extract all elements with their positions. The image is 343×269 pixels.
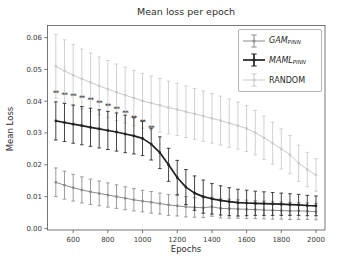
data-point-marker bbox=[185, 206, 187, 208]
data-point-marker bbox=[167, 204, 169, 206]
data-point-marker bbox=[219, 119, 221, 121]
x-axis-label: Epochs bbox=[47, 244, 325, 254]
data-point-marker bbox=[297, 204, 299, 206]
data-point-marker bbox=[55, 120, 57, 122]
data-point-marker bbox=[254, 202, 256, 204]
data-point-marker bbox=[280, 148, 282, 150]
x-tick-label: 1200 bbox=[168, 236, 186, 244]
legend-entry-maml-pinn: MAMLPINN bbox=[242, 51, 318, 70]
data-point-marker bbox=[271, 203, 273, 205]
data-point-marker bbox=[280, 203, 282, 205]
data-point-marker bbox=[72, 123, 74, 125]
data-point-marker bbox=[55, 181, 57, 183]
y-tick-label: 0.06 bbox=[26, 34, 42, 42]
data-point-marker bbox=[202, 195, 204, 197]
data-point-marker bbox=[124, 94, 126, 96]
data-point-marker bbox=[115, 131, 117, 133]
x-tick-label: 2000 bbox=[307, 236, 325, 244]
data-point-marker bbox=[141, 100, 143, 102]
data-point-marker bbox=[124, 133, 126, 135]
y-tick-label: 0.00 bbox=[26, 225, 42, 233]
data-point-marker bbox=[115, 91, 117, 93]
data-point-marker bbox=[107, 194, 109, 196]
significance-marker: ** bbox=[140, 118, 147, 126]
significance-marker: ** bbox=[62, 91, 69, 99]
y-tick-label: 0.04 bbox=[26, 98, 42, 106]
data-point-marker bbox=[81, 189, 83, 191]
data-point-marker bbox=[185, 186, 187, 188]
significance-marker: ** bbox=[88, 96, 95, 104]
data-point-marker bbox=[263, 137, 265, 139]
errorbar-glyph-icon bbox=[242, 52, 266, 68]
data-point-marker bbox=[107, 129, 109, 131]
x-tick-label: 1000 bbox=[134, 236, 152, 244]
significance-marker: ** bbox=[53, 89, 60, 97]
data-point-marker bbox=[211, 117, 213, 119]
data-point-marker bbox=[133, 199, 135, 201]
data-point-marker bbox=[81, 78, 83, 80]
data-point-marker bbox=[245, 127, 247, 129]
data-point-marker bbox=[98, 128, 100, 130]
data-point-marker bbox=[150, 102, 152, 104]
data-point-marker bbox=[107, 88, 109, 90]
x-tick-label: 1600 bbox=[238, 236, 256, 244]
data-point-marker bbox=[193, 113, 195, 115]
data-point-marker bbox=[219, 199, 221, 201]
data-point-marker bbox=[176, 176, 178, 178]
x-tick-label: 1800 bbox=[272, 236, 290, 244]
data-point-marker bbox=[228, 122, 230, 124]
legend-entry-gam-pinn: GAMPINN bbox=[242, 31, 318, 50]
data-point-marker bbox=[89, 191, 91, 193]
data-point-marker bbox=[297, 162, 299, 164]
legend-label-gam-pinn: GAMPINN bbox=[269, 36, 301, 45]
data-point-marker bbox=[193, 192, 195, 194]
x-tick-label: 1400 bbox=[203, 236, 221, 244]
significance-marker: ** bbox=[131, 114, 138, 122]
data-point-marker bbox=[289, 203, 291, 205]
data-point-marker bbox=[159, 202, 161, 204]
y-tick-label: 0.03 bbox=[26, 129, 42, 137]
data-point-marker bbox=[211, 198, 213, 200]
data-point-marker bbox=[63, 184, 65, 186]
chart-title: Mean loss per epoch bbox=[47, 6, 325, 17]
data-point-marker bbox=[81, 124, 83, 126]
figure: 6008001000120014001600180020000.000.010.… bbox=[0, 0, 343, 269]
data-point-marker bbox=[176, 108, 178, 110]
significance-marker: ** bbox=[148, 124, 155, 132]
data-point-marker bbox=[141, 200, 143, 202]
x-tick-label: 600 bbox=[66, 236, 79, 244]
data-point-marker bbox=[306, 168, 308, 170]
data-point-marker bbox=[306, 204, 308, 206]
data-point-marker bbox=[159, 104, 161, 106]
legend-entry-random: RANDOM bbox=[242, 71, 318, 90]
significance-marker: ** bbox=[122, 109, 129, 117]
data-point-marker bbox=[55, 65, 57, 67]
data-point-marker bbox=[133, 135, 135, 137]
data-point-marker bbox=[202, 115, 204, 117]
data-point-marker bbox=[263, 202, 265, 204]
y-tick-label: 0.02 bbox=[26, 161, 42, 169]
significance-marker: ** bbox=[79, 94, 86, 102]
x-tick-label: 800 bbox=[101, 236, 114, 244]
data-point-marker bbox=[72, 187, 74, 189]
data-point-marker bbox=[167, 164, 169, 166]
errorbar-glyph-icon bbox=[242, 33, 266, 49]
data-point-marker bbox=[167, 106, 169, 108]
data-point-marker bbox=[124, 197, 126, 199]
data-point-marker bbox=[237, 124, 239, 126]
data-point-marker bbox=[133, 97, 135, 99]
data-point-marker bbox=[185, 110, 187, 112]
data-point-marker bbox=[72, 74, 74, 76]
data-point-marker bbox=[89, 126, 91, 128]
data-point-marker bbox=[150, 143, 152, 145]
legend-label-random: RANDOM bbox=[269, 76, 305, 85]
data-point-marker bbox=[245, 202, 247, 204]
data-point-marker bbox=[271, 142, 273, 144]
data-point-marker bbox=[63, 70, 65, 72]
y-tick-label: 0.01 bbox=[26, 193, 42, 201]
data-point-marker bbox=[228, 200, 230, 202]
legend-label-maml-pinn: MAMLPINN bbox=[269, 56, 306, 65]
data-point-marker bbox=[115, 195, 117, 197]
data-point-marker bbox=[237, 201, 239, 203]
data-point-marker bbox=[254, 131, 256, 133]
